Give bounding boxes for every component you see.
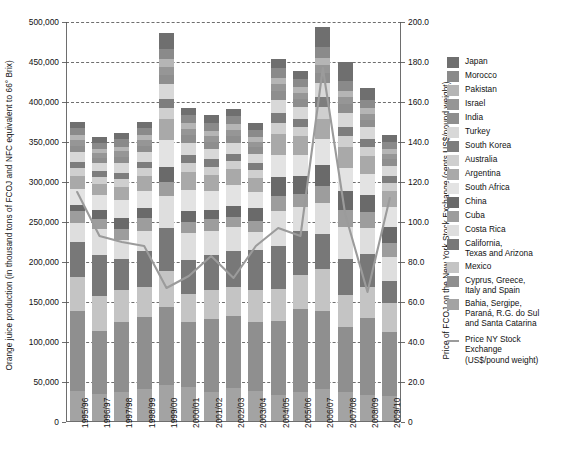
y-tick-label-right: 60.0 (408, 297, 424, 307)
legend-item-label: Turkey (465, 126, 490, 136)
y-tick-label-right: 0 (408, 417, 413, 427)
legend-item-label: Pakistan (465, 84, 497, 94)
legend-swatch-icon (447, 262, 459, 273)
legend-item[interactable]: Pakistan (447, 84, 561, 96)
legend-item-label: Bahia, Sergipe, Paraná, R.G. do Sul and … (465, 298, 539, 329)
legend-item[interactable]: Japan (447, 56, 561, 68)
price-line-series (66, 22, 401, 422)
y-tick-label-right: 140.0 (408, 137, 429, 147)
y-tick-right (401, 222, 405, 223)
y-tick-label-right: 80.0 (408, 257, 424, 267)
orange-juice-production-chart: Orange juice production (in thousand ton… (0, 0, 564, 473)
y-tick-right (401, 182, 405, 183)
chart-legend: JapanMoroccoPakistanIsraelIndiaTurkeySou… (447, 56, 561, 367)
y-tick-label-left: 100,000 (29, 337, 59, 347)
price-polyline (77, 68, 390, 292)
x-axis-label: 1995/96 (81, 398, 90, 428)
legend-item-label: South Korea (465, 140, 511, 150)
y-tick-right (401, 62, 405, 63)
legend-item-label: Cyprus, Greece, Italy and Spain (465, 275, 525, 296)
x-axis-label: 2004/05 (282, 398, 291, 428)
x-axis-label: 2000/01 (192, 398, 201, 428)
legend-swatch-icon (447, 169, 459, 180)
x-axis-label: 2003/04 (259, 398, 268, 428)
legend-swatch-icon (447, 211, 459, 222)
legend-item-label: Mexico (465, 261, 491, 271)
legend-item-price-line[interactable]: Price NY Stock Exchange (US$/pound weigh… (447, 334, 561, 365)
legend-item[interactable]: Israel (447, 98, 561, 110)
legend-item[interactable]: Morocco (447, 70, 561, 82)
legend-item[interactable]: Bahia, Sergipe, Paraná, R.G. do Sul and … (447, 298, 561, 329)
legend-item[interactable]: South Korea (447, 140, 561, 152)
x-axis-label: 1998/99 (148, 398, 157, 428)
legend-item[interactable]: South Africa (447, 182, 561, 194)
legend-swatch-icon (447, 155, 459, 166)
legend-item-label: Cuba (465, 210, 485, 220)
y-tick-label-left: 0 (54, 417, 59, 427)
y-tick-label-right: 160.0 (408, 97, 429, 107)
x-axis-label: 1999/00 (170, 398, 179, 428)
legend-item[interactable]: Australia (447, 154, 561, 166)
y-tick-label-left: 400,000 (29, 97, 59, 107)
y-tick-right (401, 102, 405, 103)
y-tick-label-right: 40.0 (408, 337, 424, 347)
x-axis-label: 1997/98 (125, 398, 134, 428)
legend-item-label: Morocco (465, 70, 497, 80)
legend-swatch-icon (447, 197, 459, 208)
legend-swatch-icon (447, 299, 459, 310)
legend-swatch-icon (447, 85, 459, 96)
legend-item-label: Costa Rica (465, 224, 506, 234)
legend-swatch-icon (447, 239, 459, 250)
legend-item[interactable]: India (447, 112, 561, 124)
legend-item-label: India (465, 112, 483, 122)
legend-item[interactable]: Argentina (447, 168, 561, 180)
legend-item[interactable]: China (447, 196, 561, 208)
y-tick-label-left: 150,000 (29, 297, 59, 307)
x-axis-label: 2007/08 (349, 398, 358, 428)
y-tick-label-left: 50,000 (33, 377, 59, 387)
y-tick-right (401, 342, 405, 343)
legend-swatch-icon (447, 127, 459, 138)
legend-item-label: California, Texas and Arizona (465, 238, 533, 259)
x-axis-label: 2009/10 (393, 398, 402, 428)
x-axis-label: 2005/06 (304, 398, 313, 428)
legend-item-label: Australia (465, 154, 497, 164)
x-axis-label: 2008/09 (371, 398, 380, 428)
y-tick-label-left: 350,000 (29, 137, 59, 147)
y-tick-right (401, 302, 405, 303)
legend-swatch-icon (447, 141, 459, 152)
legend-item[interactable]: Mexico (447, 261, 561, 273)
x-axis-label: 2001/02 (215, 398, 224, 428)
legend-item-label: South Africa (465, 182, 510, 192)
legend-item[interactable]: Cyprus, Greece, Italy and Spain (447, 275, 561, 296)
y-tick-right (401, 382, 405, 383)
legend-item[interactable]: Costa Rica (447, 224, 561, 236)
x-axis-label: 1996/97 (103, 398, 112, 428)
y-tick-label-right: 200.0 (408, 17, 429, 27)
legend-item-label: Argentina (465, 168, 501, 178)
legend-swatch-icon (447, 113, 459, 124)
legend-line-icon (447, 335, 459, 346)
legend-item[interactable]: California, Texas and Arizona (447, 238, 561, 259)
y-tick-label-left: 250,000 (29, 217, 59, 227)
y-axis-left-title: Orange juice production (in thousand ton… (5, 71, 14, 371)
legend-swatch-icon (447, 99, 459, 110)
y-tick-label-right: 180.0 (408, 57, 429, 67)
y-tick-right (401, 22, 405, 23)
legend-item[interactable]: Turkey (447, 126, 561, 138)
y-tick-label-right: 20.0 (408, 377, 424, 387)
y-tick-label-left: 450,000 (29, 57, 59, 67)
legend-item-label: Japan (465, 56, 488, 66)
legend-item-label: Price NY Stock Exchange (US$/pound weigh… (465, 334, 538, 365)
y-tick-label-left: 200,000 (29, 257, 59, 267)
legend-swatch-icon (447, 225, 459, 236)
legend-swatch-icon (447, 71, 459, 82)
y-tick-label-right: 120.0 (408, 177, 429, 187)
legend-swatch-icon (447, 276, 459, 287)
x-axis-label: 2006/07 (326, 398, 335, 428)
x-axis-label: 2002/03 (237, 398, 246, 428)
legend-item[interactable]: Cuba (447, 210, 561, 222)
y-tick-label-left: 500,000 (29, 17, 59, 27)
legend-swatch-icon (447, 57, 459, 68)
y-tick-right (401, 142, 405, 143)
